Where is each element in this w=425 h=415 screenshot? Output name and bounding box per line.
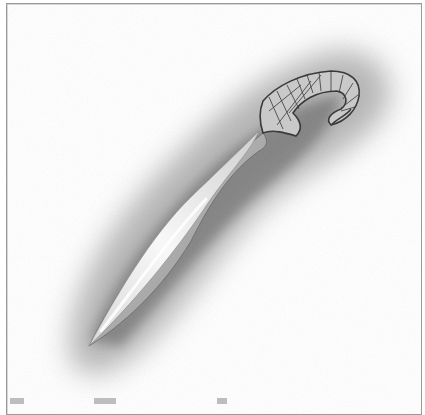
caption-glyph-fragment <box>94 398 116 404</box>
shadow-smudge <box>7 4 421 414</box>
illustration-frame <box>6 3 422 415</box>
sword-illustration <box>7 4 421 414</box>
caption-glyph-fragment <box>10 398 24 404</box>
caption-glyph-fragment <box>217 398 227 404</box>
cropped-caption <box>10 398 410 404</box>
